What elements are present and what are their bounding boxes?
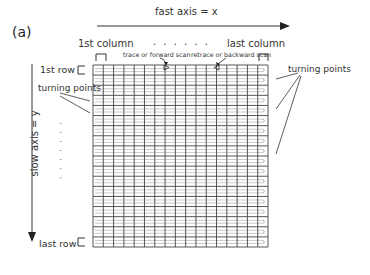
turning-points-left-label: turning points [38,83,101,93]
last-row-label: last row [39,238,76,249]
first-column-bracket [96,54,106,61]
retrace-label: retrace or backward scan [191,51,271,58]
first-row-bracket [78,66,85,74]
last-row-bracket [78,238,85,246]
vertical-ellipsis: . . . . . . . [58,122,67,181]
turning-points-left-leaders [60,93,90,113]
panel-label: (a) [12,24,32,40]
first-column-label: 1st column [78,38,133,49]
scan-grid [93,65,268,247]
last-column-label: last column [227,38,285,49]
turning-points-right-label: turning points [288,64,351,74]
fast-axis-label: fast axis = x [155,6,218,17]
turning-points-right-leaders [276,73,301,154]
slow-axis-label: slow axis = y [29,104,40,184]
fast-axis-arrow [97,22,290,30]
trace-label: trace or forward scan [123,51,190,58]
first-row-label: 1st row [40,64,75,75]
horizontal-ellipsis: . . . . . . [153,36,210,47]
